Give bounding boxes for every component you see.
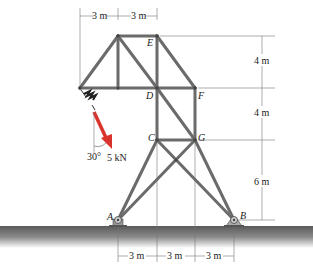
node-label-e: E <box>146 37 153 48</box>
truss-diagram: 3 m 3 m 4 m 4 m 6 m 3 m 3 m 3 m <box>0 0 313 272</box>
joints <box>78 34 197 161</box>
svg-text:3 m: 3 m <box>206 250 222 261</box>
load-angle: 30° <box>87 151 101 162</box>
spring-connector <box>81 90 96 110</box>
svg-text:3 m: 3 m <box>131 10 147 21</box>
node-label-b: B <box>240 210 246 221</box>
svg-text:3 m: 3 m <box>167 250 183 261</box>
node-label-c: C <box>148 132 155 143</box>
svg-text:3 m: 3 m <box>92 10 108 21</box>
ground <box>0 226 313 248</box>
load-magnitude: 5 kN <box>107 152 127 163</box>
load-arrow <box>94 112 112 153</box>
svg-text:6 m: 6 m <box>254 176 270 187</box>
svg-text:4 m: 4 m <box>254 55 270 66</box>
node-label-f: F <box>197 90 205 101</box>
node-label-a: A <box>106 211 114 222</box>
svg-text:4 m: 4 m <box>254 107 270 118</box>
svg-text:3 m: 3 m <box>129 250 145 261</box>
node-label-g: G <box>198 132 205 143</box>
node-label-d: D <box>145 90 154 101</box>
